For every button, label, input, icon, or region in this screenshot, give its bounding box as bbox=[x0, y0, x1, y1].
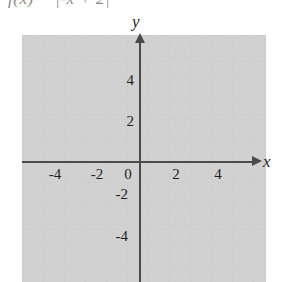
x-tick-label: 0 bbox=[115, 166, 141, 183]
y-tick-label: -2 bbox=[104, 186, 128, 203]
x-tick-label: -2 bbox=[84, 166, 110, 183]
x-tick-label: 2 bbox=[163, 166, 189, 183]
y-tick-label: -4 bbox=[104, 228, 128, 245]
y-axis-label: y bbox=[132, 12, 140, 32]
x-tick-label: -4 bbox=[42, 166, 68, 183]
y-tick-label: 4 bbox=[110, 72, 134, 89]
gridline-horizontal bbox=[22, 56, 266, 57]
gridline-horizontal bbox=[22, 245, 266, 246]
x-tick-label: 4 bbox=[205, 166, 231, 183]
x-axis-label: x bbox=[263, 152, 271, 172]
gridline-horizontal bbox=[22, 224, 266, 225]
gridline-horizontal bbox=[22, 77, 266, 78]
gridline-horizontal bbox=[22, 266, 266, 267]
gridline-horizontal bbox=[22, 98, 266, 99]
gridline-horizontal bbox=[22, 203, 266, 204]
gridline-horizontal bbox=[22, 140, 266, 141]
y-tick-label: 2 bbox=[110, 113, 134, 130]
coordinate-plane: x y -4 -2 0 2 4 4 2 -2 -4 bbox=[0, 0, 285, 282]
gridline-horizontal bbox=[22, 119, 266, 120]
y-axis-line bbox=[139, 40, 141, 282]
x-axis-arrowhead-icon bbox=[252, 156, 262, 166]
y-axis-arrowhead-icon bbox=[135, 33, 145, 43]
